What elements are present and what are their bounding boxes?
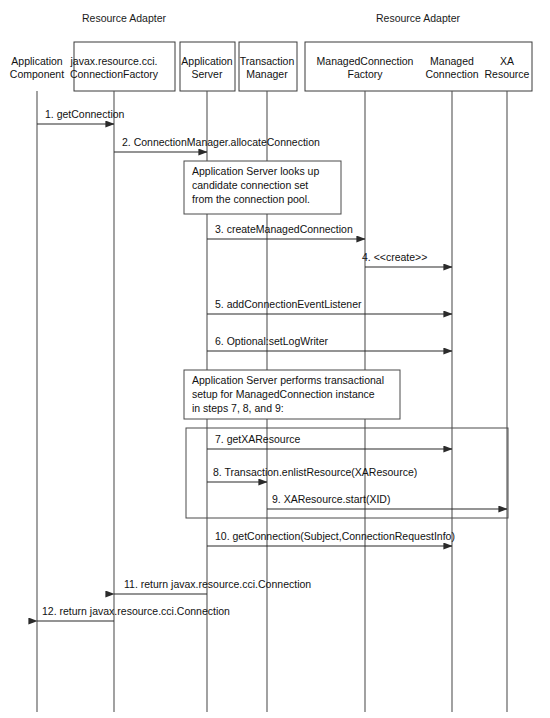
participant-label-application-component: Component (10, 68, 64, 80)
note-connection-pool-lookup-line: from the connection pool. (192, 193, 310, 205)
note-connection-pool-lookup-line: candidate connection set (192, 179, 308, 191)
participant-label-connection-factory: javax.resource.cci. (70, 55, 158, 67)
participant-header-boxes: ApplicationComponentjavax.resource.cci.C… (10, 42, 532, 91)
participant-label-application-server: Server (192, 68, 223, 80)
participant-label-transaction-manager: Transaction (240, 55, 295, 67)
message-10-label: 10. getConnection(Subject,ConnectionRequ… (215, 530, 455, 542)
note-transactional-setup-line: in steps 7, 8, and 9: (192, 402, 284, 414)
group-resource-adapter-right: Resource Adapter (376, 12, 461, 24)
message-2-label: 2. ConnectionManager.allocateConnection (122, 136, 320, 148)
participant-label-application-component: Application (11, 55, 63, 67)
header-box-transaction-manager (239, 42, 297, 91)
participant-label-xa-resource: XA (500, 55, 514, 67)
participant-label-managed-connection: Managed (430, 55, 474, 67)
header-box-application-server (180, 42, 235, 91)
note-boxes: Application Server looks upcandidate con… (184, 161, 400, 419)
header-box-connection-factory (74, 42, 175, 91)
participant-label-managed-connection-factory: Factory (347, 68, 383, 80)
note-transactional-setup-line: setup for ManagedConnection instance (192, 388, 375, 400)
participant-label-managed-connection: Connection (425, 68, 478, 80)
participant-label-xa-resource: Resource (485, 68, 530, 80)
group-labels: Resource AdapterResource Adapter (82, 12, 461, 24)
message-11-label: 11. return javax.resource.cci.Connection (124, 578, 311, 590)
group-resource-adapter-left: Resource Adapter (82, 12, 167, 24)
message-5-label: 5. addConnectionEventListener (215, 298, 362, 310)
participant-label-application-server: Application (181, 55, 233, 67)
message-6-label: 6. Optional:setLogWriter (215, 335, 329, 347)
note-transactional-setup-line: Application Server performs transactiona… (192, 374, 384, 386)
message-7-label: 7. getXAResource (215, 433, 300, 445)
participant-label-connection-factory: ConnectionFactory (70, 68, 159, 80)
message-9-label: 9. XAResource.start(XID) (272, 493, 390, 505)
message-4-label: 4. <<create>> (362, 251, 427, 263)
message-12-label: 12. return javax.resource.cci.Connection (42, 605, 230, 617)
header-box-resource-adapter-right (305, 42, 532, 91)
sequence-diagram: Resource AdapterResource Adapter Applica… (0, 0, 550, 718)
participant-label-transaction-manager: Manager (246, 68, 288, 80)
sequence-diagram-canvas: Resource AdapterResource Adapter Applica… (0, 0, 550, 718)
message-8-label: 8. Transaction.enlistResource(XAResource… (213, 466, 417, 478)
participant-label-managed-connection-factory: ManagedConnection (317, 55, 414, 67)
message-3-label: 3. createManagedConnection (215, 223, 353, 235)
message-1-label: 1. getConnection (45, 108, 125, 120)
note-connection-pool-lookup-line: Application Server looks up (192, 165, 319, 177)
